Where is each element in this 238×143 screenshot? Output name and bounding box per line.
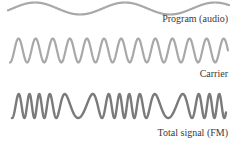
fm-total-signal-waveform xyxy=(12,94,226,118)
program-audio-label: Program (audio) xyxy=(162,14,228,24)
carrier-waveform xyxy=(10,39,228,63)
carrier-label: Carrier xyxy=(200,69,228,79)
fm-signal-label: Total signal (FM) xyxy=(158,128,228,138)
